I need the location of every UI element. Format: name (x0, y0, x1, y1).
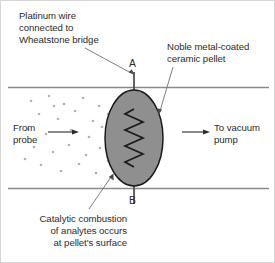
label-platinum-wire-line2: connected to (19, 22, 73, 33)
label-from-probe-line2: probe (13, 134, 37, 145)
label-to-vacuum-line2: pump (214, 134, 238, 145)
label-noble-pellet-line2: ceramic pellet (167, 53, 225, 64)
label-platinum-wire: Platinum wireconnected toWheatstone brid… (19, 10, 99, 47)
label-to-vacuum-pump: To vacuumpump (214, 122, 260, 146)
label-from-probe: Fromprobe (13, 122, 37, 146)
leader-line-catalytic (89, 174, 114, 210)
label-noble-pellet-line1: Noble metal-coated (167, 41, 249, 52)
pellistor-diagram: Platinum wireconnected toWheatstone brid… (0, 0, 275, 263)
label-platinum-wire-line3: Wheatstone bridge (19, 34, 99, 45)
label-platinum-wire-line1: Platinum wire (19, 10, 76, 21)
outlet-flow-arrow (182, 129, 210, 134)
label-to-vacuum-line1: To vacuum (214, 122, 260, 133)
label-from-probe-line1: From (13, 122, 35, 133)
label-terminal-b: B (129, 195, 136, 206)
ceramic-pellet-shape (105, 90, 163, 186)
label-catalytic-combustion: Catalytic combustionof analytes occursat… (9, 213, 127, 250)
leader-line-noble-pellet (157, 67, 173, 115)
label-catalytic-line2: of analytes occurs (51, 225, 127, 236)
leader-line-platinum-wire (85, 48, 135, 75)
label-catalytic-line3: at pellet's surface (54, 237, 127, 248)
inlet-flow-arrow (48, 129, 79, 134)
label-catalytic-line1: Catalytic combustion (39, 213, 127, 224)
label-terminal-a: A (129, 58, 136, 69)
label-noble-metal-coated-ceramic-pellet: Noble metal-coatedceramic pellet (167, 41, 249, 65)
